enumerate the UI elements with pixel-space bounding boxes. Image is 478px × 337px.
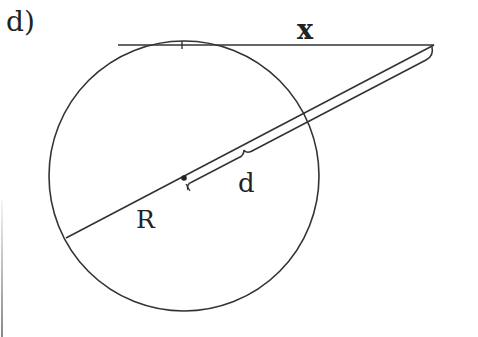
radius-label: R (136, 207, 155, 232)
distance-brace (188, 47, 433, 190)
part-label: d) (6, 8, 35, 36)
center-point (181, 175, 187, 181)
secant-line (66, 45, 434, 238)
distance-label: d (238, 170, 255, 196)
page-edge-line (1, 200, 3, 337)
tangent-length-label: x (297, 16, 313, 43)
geometry-figure: d) x d R (0, 0, 478, 337)
